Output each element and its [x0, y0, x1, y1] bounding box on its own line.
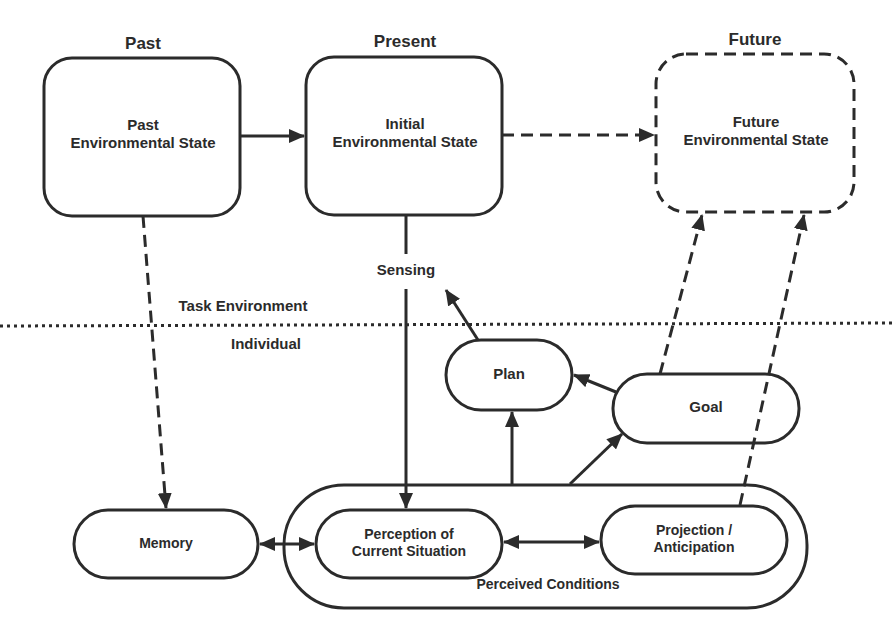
arrow-goal-to-future: [660, 215, 702, 374]
header-future: Future: [729, 30, 782, 50]
future-state-label: Future Environmental State: [683, 113, 828, 149]
arrow-plan-to-environment: [446, 290, 478, 340]
projection-label: Projection / Anticipation: [654, 522, 735, 556]
task-environment-label: Task Environment: [179, 297, 308, 315]
initial-state-label: Initial Environmental State: [332, 115, 477, 151]
header-present: Present: [374, 32, 436, 52]
memory-label: Memory: [139, 535, 193, 552]
task-individual-boundary: [0, 323, 896, 326]
arrow-past-to-memory: [143, 216, 166, 508]
past-state-label: Past Environmental State: [70, 116, 215, 152]
plan-label: Plan: [493, 365, 525, 383]
arrow-goal-to-plan: [574, 375, 616, 392]
header-past: Past: [125, 34, 161, 54]
arrow-projection-to-future: [740, 215, 804, 505]
perceived-conditions-label: Perceived Conditions: [476, 576, 619, 593]
individual-label: Individual: [231, 335, 301, 353]
perception-label: Perception of Current Situation: [352, 526, 466, 560]
sensing-label: Sensing: [377, 261, 435, 279]
arrow-perceived-to-goal: [570, 434, 622, 484]
goal-label: Goal: [689, 398, 722, 416]
